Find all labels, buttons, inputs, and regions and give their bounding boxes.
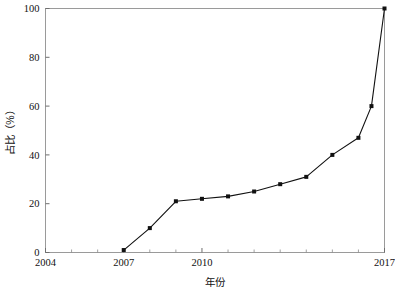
- data-point-marker: [200, 197, 204, 201]
- y-axis-title: 占比（%）: [4, 105, 16, 154]
- x-tick-label: 2004: [35, 257, 57, 268]
- plot-frame: [46, 9, 385, 253]
- y-tick-label: 100: [24, 3, 40, 14]
- data-point-marker: [148, 226, 152, 230]
- data-point-marker: [278, 182, 282, 186]
- data-point-marker: [174, 199, 178, 203]
- y-tick-label: 60: [29, 101, 40, 112]
- data-point-marker: [369, 104, 373, 108]
- data-point-marker: [383, 7, 387, 11]
- data-point-marker: [356, 136, 360, 140]
- y-tick-label: 40: [29, 150, 40, 161]
- y-tick-label: 80: [29, 52, 40, 63]
- data-point-marker: [226, 194, 230, 198]
- chart-canvas: 020406080100 2004200720102017 年份 占比（%）: [0, 0, 395, 294]
- line-chart: 020406080100 2004200720102017 年份 占比（%）: [0, 0, 395, 294]
- x-tick-label: 2007: [113, 257, 134, 268]
- data-point-marker: [304, 175, 308, 179]
- x-tick-label: 2010: [191, 257, 212, 268]
- data-series: [122, 7, 387, 253]
- data-point-marker: [122, 248, 126, 252]
- data-point-marker: [330, 153, 334, 157]
- data-point-marker: [252, 190, 256, 194]
- x-tick-label: 2017: [374, 257, 395, 268]
- x-axis-title: 年份: [205, 276, 226, 288]
- x-axis: 2004200720102017: [35, 248, 395, 268]
- y-tick-label: 20: [29, 198, 40, 209]
- series-line: [124, 9, 385, 251]
